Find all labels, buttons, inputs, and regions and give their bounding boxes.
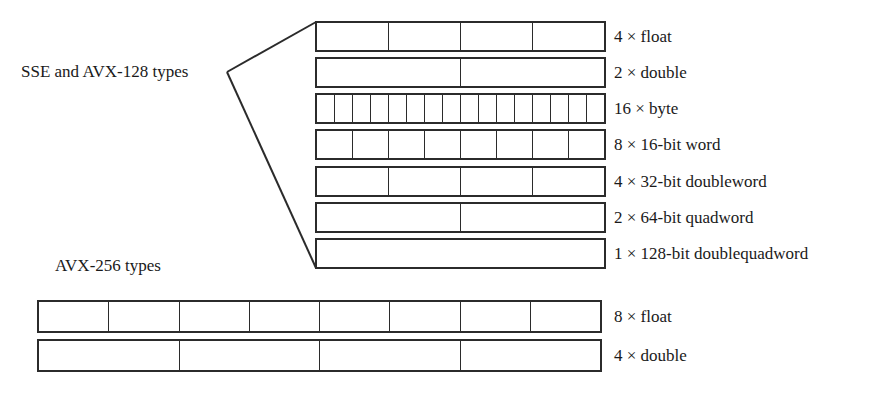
sse-row-label: 1 × 128-bit doublequadword — [614, 244, 808, 264]
register-lane — [319, 302, 389, 331]
sse-row-label: 2 × double — [614, 63, 687, 83]
register-lane — [317, 59, 460, 86]
avx256-register-row — [37, 339, 602, 372]
register-lane — [478, 95, 496, 122]
register-lane — [108, 302, 178, 331]
register-lane — [388, 168, 460, 195]
register-lane — [532, 95, 550, 122]
register-lane — [179, 341, 320, 370]
register-lane — [424, 131, 460, 158]
sse-register-row — [315, 129, 606, 160]
register-lane — [460, 23, 532, 50]
register-lane — [460, 341, 601, 370]
register-lane — [388, 23, 460, 50]
register-lane — [460, 95, 478, 122]
sse-register-row — [315, 202, 606, 233]
sse-register-row — [315, 166, 606, 197]
sse-register-row — [315, 21, 606, 52]
register-lane — [460, 168, 532, 195]
avx256-row-label: 8 × float — [614, 307, 672, 327]
sse-register-row — [315, 57, 606, 88]
register-lane — [370, 95, 388, 122]
register-lane — [424, 95, 442, 122]
sse-register-row — [315, 93, 606, 124]
register-lane — [460, 204, 604, 231]
avx256-row-label: 4 × double — [614, 346, 687, 366]
register-lane — [352, 131, 388, 158]
register-lane — [460, 302, 530, 331]
register-lane — [317, 240, 604, 267]
register-lane — [460, 131, 496, 158]
register-lane — [317, 23, 388, 50]
register-lane — [317, 168, 388, 195]
register-lane — [334, 95, 352, 122]
sse-row-label: 8 × 16-bit word — [614, 135, 720, 155]
register-lane — [532, 23, 604, 50]
register-lane — [532, 131, 568, 158]
register-lane — [388, 95, 406, 122]
avx256-register-row — [37, 300, 602, 333]
register-lane — [568, 131, 604, 158]
register-lane — [317, 131, 352, 158]
register-lane — [319, 341, 460, 370]
sse-avx128-group-label: SSE and AVX-128 types — [21, 62, 188, 82]
register-lane — [388, 131, 424, 158]
register-lane — [514, 95, 532, 122]
register-lane — [249, 302, 319, 331]
register-lane — [496, 131, 532, 158]
avx256-group-label: AVX-256 types — [55, 256, 161, 276]
register-lane — [39, 341, 179, 370]
register-lane — [317, 95, 334, 122]
register-lane — [530, 302, 600, 331]
register-lane — [317, 204, 460, 231]
register-lane — [389, 302, 459, 331]
sse-row-label: 4 × 32-bit doubleword — [614, 172, 767, 192]
register-lane — [442, 95, 460, 122]
register-lane — [496, 95, 514, 122]
sse-row-label: 16 × byte — [614, 99, 678, 119]
register-lane — [586, 95, 604, 122]
sse-register-row — [315, 238, 606, 269]
register-lane — [39, 302, 108, 331]
register-lane — [460, 59, 604, 86]
register-lane — [179, 302, 249, 331]
register-lane — [406, 95, 424, 122]
sse-row-label: 2 × 64-bit quadword — [614, 208, 753, 228]
register-lane — [568, 95, 586, 122]
register-lane — [352, 95, 370, 122]
sse-row-label: 4 × float — [614, 27, 672, 47]
register-lane — [532, 168, 604, 195]
register-lane — [550, 95, 568, 122]
